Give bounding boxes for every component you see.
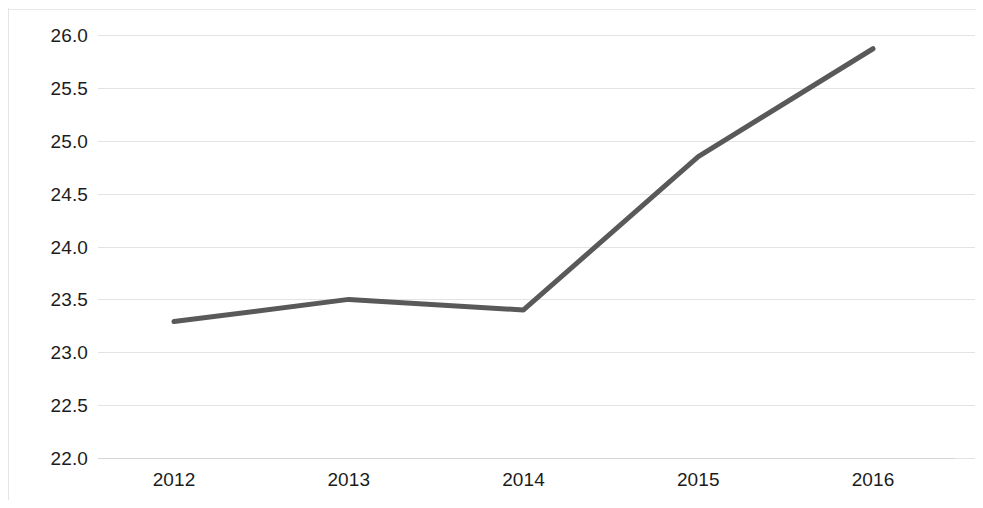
y-axis-tick-label: 25.0 <box>0 132 88 151</box>
x-axis-tick-label: 2014 <box>502 470 545 489</box>
x-axis-tick-label: 2013 <box>327 470 370 489</box>
plot-area <box>98 35 975 458</box>
chart-frame-top-border <box>8 9 976 10</box>
gridline <box>98 352 975 353</box>
x-axis-tick-label: 2015 <box>677 470 720 489</box>
y-axis-tick-label: 24.0 <box>0 238 88 257</box>
gridline <box>98 405 975 406</box>
y-axis-tick-label: 24.5 <box>0 185 88 204</box>
gridline <box>98 247 975 248</box>
y-axis-tick-label: 22.0 <box>0 449 88 468</box>
y-axis: 26.025.525.024.524.023.523.022.522.0 <box>0 0 88 508</box>
x-axis-tick-label: 2016 <box>852 470 895 489</box>
gridline <box>98 299 975 300</box>
x-axis-line <box>98 458 955 459</box>
y-axis-tick-label: 23.0 <box>0 343 88 362</box>
y-axis-tick-label: 26.0 <box>0 26 88 45</box>
y-axis-tick-label: 23.5 <box>0 290 88 309</box>
gridline <box>98 88 975 89</box>
line-chart: 26.025.525.024.524.023.523.022.522.0 201… <box>0 0 983 508</box>
gridline <box>98 141 975 142</box>
x-axis-tick-label: 2012 <box>153 470 196 489</box>
y-axis-tick-label: 22.5 <box>0 396 88 415</box>
gridline <box>98 35 975 36</box>
y-axis-tick-label: 25.5 <box>0 79 88 98</box>
gridline <box>98 194 975 195</box>
